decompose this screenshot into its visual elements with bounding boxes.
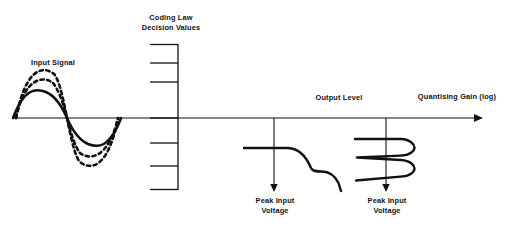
peak-input-voltage-label-1: Peak Input Voltage — [244, 196, 306, 215]
quantising-gain-label: Quantising Gain (log) — [406, 92, 508, 102]
main-horizontal-axis — [12, 114, 483, 122]
peak-input-voltage-label-2: Peak Input Voltage — [356, 196, 418, 215]
quantising-gain-zigzag — [355, 139, 415, 181]
quantising-gain-diagram: Input Signal Coding Law Decision Values … — [0, 0, 510, 227]
input-signal-label: Input Signal — [22, 58, 84, 68]
coding-law-decision-values-label: Coding Law Decision Values — [127, 13, 215, 32]
output-level-label: Output Level — [300, 93, 378, 103]
coding-law-ladder — [150, 44, 178, 190]
peak-input-voltage-arrowhead-1 — [270, 184, 277, 192]
main-axis-arrowhead — [474, 114, 483, 122]
peak-input-voltage-arrowhead-2 — [382, 184, 389, 192]
output-level-curve — [244, 148, 341, 191]
quantising-gain-panel — [355, 118, 415, 192]
diagram-canvas — [0, 0, 510, 227]
output-level-panel — [244, 118, 341, 192]
